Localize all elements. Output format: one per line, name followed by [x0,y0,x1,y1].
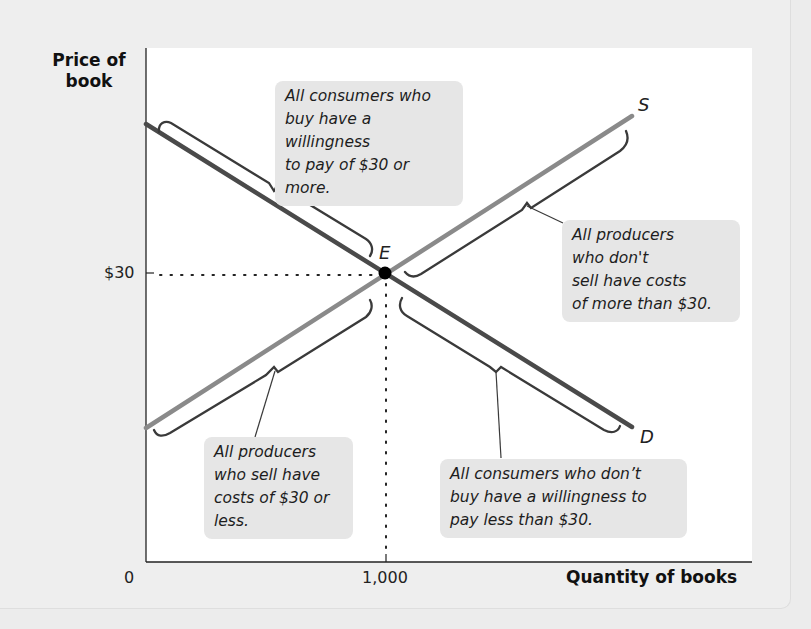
equilibrium-point [379,267,392,280]
y-tick-label: $30 [104,263,135,282]
y-axis-title-line1: Price of [48,50,130,71]
callout-line: All consumers who don’t [450,463,678,486]
callout-line: who sell have [214,464,344,487]
callout-line: All producers [214,441,344,464]
leader-non-buyers [496,372,501,458]
bracket-sellers [154,300,372,436]
leader-non-sellers [527,206,563,223]
y-axis-title-line2: book [48,71,130,92]
callout-line: sell have costs [572,270,731,293]
y-axis-title: Price of book [48,50,130,92]
x-tick-label: 1,000 [362,568,408,587]
demand-label: D [640,426,654,447]
callout-line: All producers [572,224,731,247]
callout-line: pay less than $30. [450,509,678,532]
origin-label: 0 [124,568,134,587]
callout-line: costs of $30 or [214,487,344,510]
callout-line: All consumers who [285,85,454,108]
x-axis-title: Quantity of books [566,567,737,588]
callout-non-sellers: All producers who don't sell have costs … [562,220,740,322]
callout-line: of more than $30. [572,293,731,316]
callout-line: to pay of $30 or more. [285,154,454,200]
callout-line: less. [214,510,344,533]
callout-sellers: All producers who sell have costs of $30… [204,437,353,539]
callout-non-buyers: All consumers who don’t buy have a willi… [440,459,687,538]
callout-line: buy have a willingness [285,108,454,154]
supply-label: S [638,94,649,115]
callout-line: buy have a willingness to [450,486,678,509]
callout-line: who don't [572,247,731,270]
callout-buyers: All consumers who buy have a willingness… [275,81,463,206]
equilibrium-label: E [379,242,390,263]
